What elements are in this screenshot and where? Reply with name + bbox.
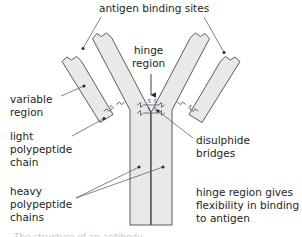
light-chain-right (189, 57, 240, 123)
leader-dot-antigen-right (223, 51, 226, 54)
label-variable-region: variable region (10, 93, 52, 119)
label-cropped-caption: The structure of an antibody (14, 231, 142, 237)
label-antigen-binding-sites: antigen binding sites (99, 2, 209, 15)
label-disulphide-bridges: disulphide bridges (196, 134, 250, 160)
leader-dot-variable-region (83, 85, 86, 88)
svg-text:S: S (153, 98, 157, 104)
leader-dot-disulphide (157, 110, 160, 113)
svg-text:S: S (148, 106, 152, 112)
light-chain-left (62, 57, 113, 123)
label-hinge-region: hinge region (132, 44, 165, 70)
leader-antigen-right (204, 17, 224, 53)
label-heavy-polypeptide-chains: heavy polypeptide chains (10, 185, 72, 224)
leader-dot-light-chain (103, 117, 106, 120)
leader-light-chain (72, 119, 104, 137)
leader-dot-heavy-right (162, 166, 165, 169)
label-hinge-region-note: hinge region gives flexibility in bindin… (196, 186, 299, 225)
antibody-diagram-figure: S S S S S S (0, 0, 302, 237)
label-light-polypeptide-chain: light polypeptide chain (10, 130, 72, 169)
leader-dot-antigen-left (82, 47, 85, 50)
disulphide-bridge-symbols: S S S S S S (104, 98, 198, 115)
svg-text:S: S (148, 98, 152, 104)
leader-dot-heavy-left (138, 166, 141, 169)
